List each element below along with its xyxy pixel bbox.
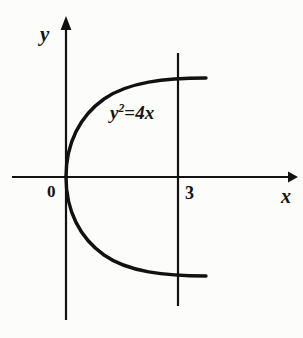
parabola-upper-branch [66,78,206,177]
y-axis-label: y [40,24,49,45]
origin-label: 0 [47,183,56,200]
x-axis-arrowhead [288,172,298,183]
equation-operator: = [124,102,135,123]
equation-right-side: 4x [135,102,154,123]
x-tick-label-3: 3 [185,184,194,202]
x-axis-label: x [281,186,291,206]
y-axis-arrowhead [61,16,72,30]
parabola-figure: y2=4x y x 0 3 [0,0,303,338]
curve-equation-label: y2=4x [110,103,154,122]
figure-canvas [0,0,303,338]
x-axis [12,172,298,183]
